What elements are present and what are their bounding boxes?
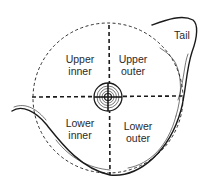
- label-upper-outer: Upper outer: [113, 53, 153, 77]
- diagram-drawing: [0, 0, 203, 185]
- shade-right-upper: [160, 48, 181, 116]
- label-line: outer: [113, 65, 153, 77]
- label-lower-outer: Lower outer: [118, 120, 158, 144]
- label-line: Upper: [60, 53, 100, 65]
- label-tail: Tail: [170, 29, 194, 41]
- nipple-areola: [94, 83, 122, 111]
- label-line: Lower: [60, 117, 100, 129]
- label-line: Upper: [113, 53, 153, 65]
- label-upper-inner: Upper inner: [60, 53, 100, 77]
- shade-bottom: [56, 140, 110, 170]
- label-lower-inner: Lower inner: [60, 117, 100, 141]
- label-line: outer: [118, 132, 158, 144]
- label-line: Lower: [118, 120, 158, 132]
- breast-quadrant-diagram: Upper inner Upper outer Lower inner Lowe…: [0, 0, 203, 185]
- label-line: inner: [60, 129, 100, 141]
- label-line: inner: [60, 65, 100, 77]
- shade-left: [14, 105, 46, 120]
